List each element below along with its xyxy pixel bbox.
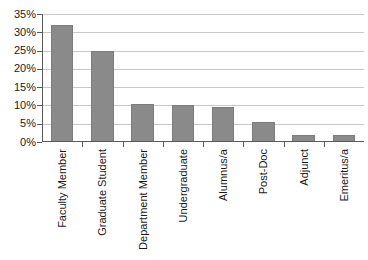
bar-slot	[42, 14, 82, 142]
bar-slot	[284, 14, 324, 142]
x-axis-label-slot: Adjunct	[284, 149, 324, 257]
x-axis-label-slot: Emeritus/a	[324, 149, 364, 257]
bar-slot	[203, 14, 243, 142]
bars-container	[42, 14, 364, 142]
x-axis-tick-mark	[82, 142, 83, 147]
x-axis-tick-mark	[163, 142, 164, 147]
x-axis-category-label: Department Member	[137, 149, 148, 250]
x-axis-category-label: Graduate Student	[97, 149, 108, 236]
x-axis-tick-mark	[203, 142, 204, 147]
x-axis-tick-mark	[243, 142, 244, 147]
bar	[91, 51, 114, 142]
x-axis-label-slot: Graduate Student	[82, 149, 122, 257]
x-axis-label-slot: Undergraduate	[163, 149, 203, 257]
x-axis-tick-marks	[42, 142, 364, 148]
plot-area	[42, 14, 364, 142]
x-axis-category-label: Faculty Member	[57, 149, 68, 228]
y-axis-tick-label: 5%	[20, 118, 36, 129]
x-axis-label-slot: Post-Doc	[243, 149, 283, 257]
x-axis-label-slot: Faculty Member	[42, 149, 82, 257]
y-axis-tick-label: 30%	[14, 26, 36, 37]
y-axis-tick-labels: 0%5%10%15%20%25%30%35%	[0, 14, 36, 142]
x-axis-category-label: Undergraduate	[177, 149, 188, 222]
x-axis-category-labels: Faculty MemberGraduate StudentDepartment…	[42, 149, 364, 257]
y-axis-tick-label: 25%	[14, 45, 36, 56]
x-axis-tick-mark	[324, 142, 325, 147]
x-axis-tick-mark	[123, 142, 124, 147]
x-axis-category-label: Alumnus/a	[218, 149, 229, 201]
bar	[51, 25, 74, 142]
y-axis-tick-label: 35%	[14, 8, 36, 19]
y-axis-tick-label: 15%	[14, 81, 36, 92]
x-axis-category-label: Adjunct	[298, 149, 309, 186]
x-axis-tick-mark	[284, 142, 285, 147]
bar	[252, 122, 275, 142]
y-axis-tick-label: 20%	[14, 63, 36, 74]
y-axis-tick-label: 10%	[14, 99, 36, 110]
x-axis-label-slot: Alumnus/a	[203, 149, 243, 257]
bar	[131, 104, 154, 142]
y-axis-tick-label: 0%	[20, 136, 36, 147]
x-axis-category-label: Emeritus/a	[338, 149, 349, 202]
bar	[172, 105, 195, 142]
bar-slot	[82, 14, 122, 142]
x-axis-category-label: Post-Doc	[258, 149, 269, 194]
bar	[212, 107, 235, 142]
bar-slot	[123, 14, 163, 142]
bar-slot	[243, 14, 283, 142]
x-axis-label-slot: Department Member	[123, 149, 163, 257]
bar-chart: 0%5%10%15%20%25%30%35% Faculty MemberGra…	[0, 0, 368, 260]
bar-slot	[163, 14, 203, 142]
bar-slot	[324, 14, 364, 142]
